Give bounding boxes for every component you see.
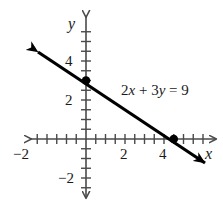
x-tick-label-2: 2 [120,147,128,162]
graph-figure: −2 2 4 4 2 −2 y x 2x + 3y = 9 [0,0,223,221]
y-axis-label: y [68,16,75,32]
x-axis [31,134,216,144]
y-intercept-point [82,76,91,85]
equation-coef-y: 3 [151,82,159,98]
equation-coef-x: 2 [121,82,129,98]
y-axis [81,17,91,198]
y-tick-label-2: 2 [65,93,73,108]
y-tick-label-4: 4 [65,54,73,69]
equation-annotation: 2x + 3y = 9 [121,83,189,98]
x-intercept-point [169,135,178,144]
x-axis-label: x [205,146,212,162]
coordinate-plane-svg [0,0,223,221]
equation-equals: = [165,82,181,98]
equation-plus: + [135,82,151,98]
equation-constant: 9 [181,82,189,98]
y-tick-label-neg2: −2 [58,171,74,186]
x-tick-label-4: 4 [159,147,167,162]
x-tick-label-neg2: −2 [13,147,29,162]
